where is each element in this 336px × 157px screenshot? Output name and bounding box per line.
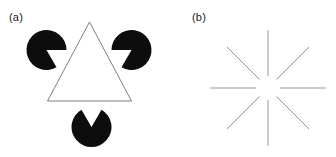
- panel-b-ehrenstein-starburst: (b): [168, 0, 336, 157]
- figure-canvas: (a) (b): [0, 0, 336, 157]
- ehrenstein-starburst-graphic: [168, 0, 336, 157]
- kanizsa-triangle-graphic: [0, 0, 168, 157]
- starburst-ray-315deg: [276, 47, 309, 80]
- pacman-disc-top-left: [27, 30, 67, 70]
- pacman-disc-bottom: [72, 110, 112, 147]
- pacman-disc-top-right: [112, 30, 152, 70]
- starburst-rays: [210, 30, 326, 146]
- starburst-ray-135deg: [227, 96, 260, 129]
- triangle-stroke: [48, 22, 132, 101]
- panel-a-kanizsa-triangle: (a): [0, 0, 168, 157]
- illusory-triangle-outline: [48, 22, 132, 101]
- starburst-ray-45deg: [276, 96, 309, 129]
- starburst-ray-225deg: [227, 47, 260, 80]
